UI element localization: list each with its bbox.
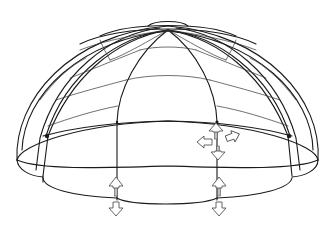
arrow-right-icon (224, 128, 241, 144)
arrow-left-icon (197, 136, 212, 148)
dome-equator (17, 121, 318, 168)
arrow-down-icon (211, 146, 225, 160)
arrow-up-icon (212, 177, 226, 196)
rib-nodes (45, 120, 291, 138)
arrow-down-icon (212, 202, 226, 216)
arrow-down-icon (109, 202, 123, 216)
dome-ribs (36, 28, 300, 200)
dome-outline (17, 26, 318, 160)
dome-diagram (0, 0, 335, 228)
arrow-up-icon (109, 177, 123, 196)
dome-drawing (0, 0, 335, 228)
